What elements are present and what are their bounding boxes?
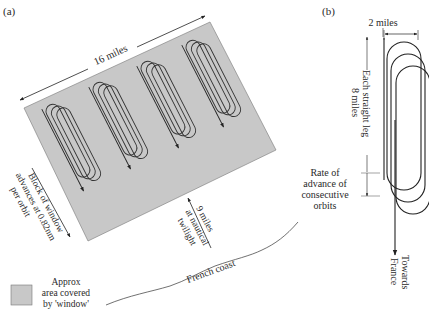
rate-label-line3: consecutive xyxy=(301,189,349,200)
legend-line3: by 'window' xyxy=(43,299,89,309)
window-area xyxy=(24,22,276,241)
leg-label-line2: 8 miles xyxy=(350,88,361,117)
leg-label-line1: Each straight leg xyxy=(361,70,372,137)
panel-b-label: (b) xyxy=(322,5,335,18)
rate-label-line2: advance of xyxy=(303,178,347,189)
rate-label-line1: Rate of xyxy=(310,167,340,178)
legend-line1: Approx xyxy=(51,277,80,287)
legend: Approx area covered by 'window' xyxy=(11,277,90,309)
coast-label: French coast xyxy=(185,257,237,285)
direction-label-line2: France xyxy=(389,258,400,286)
rate-label-line4: orbits xyxy=(314,200,337,211)
direction-label-line1: Towards xyxy=(400,255,411,289)
legend-line2: area covered xyxy=(42,288,91,298)
panel-b-orbits: 2 miles Each straight leg 8 miles Rate o… xyxy=(301,17,429,289)
window-orbit-diagram: (a) 16 miles xyxy=(0,0,429,312)
width-label-b: 2 miles xyxy=(368,17,397,28)
distance-annotation: 9 miles at nautical twilight xyxy=(174,198,221,253)
legend-swatch xyxy=(11,285,32,305)
panel-a-label: (a) xyxy=(3,5,16,18)
